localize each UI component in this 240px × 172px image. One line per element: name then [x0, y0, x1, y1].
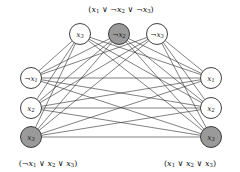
node-layer: x3¬x2¬x3¬x1x2x3x1x2x3 [21, 24, 222, 148]
graph-node-t1[interactable]: ¬x2 [109, 24, 130, 45]
node-circle-selected[interactable] [201, 127, 222, 148]
graph-edge [40, 39, 148, 102]
node-circle-selected[interactable] [21, 127, 42, 148]
graph-node-l0[interactable]: ¬x1 [21, 68, 42, 89]
graph-node-r1[interactable]: x2 [201, 98, 222, 119]
graph-edge [37, 43, 74, 100]
node-circle[interactable] [21, 98, 42, 119]
clause-graph: x3¬x2¬x3¬x1x2x3x1x2x3 (x1 ∨ ¬x2 ∨ ¬x3)(¬… [0, 0, 240, 172]
node-circle[interactable] [201, 68, 222, 89]
graph-edge [165, 41, 203, 72]
node-circle[interactable] [201, 98, 222, 119]
sat-reduction-figure: x3¬x2¬x3¬x1x2x3x1x2x3 (x1 ∨ ¬x2 ∨ ¬x3)(¬… [0, 0, 240, 172]
node-circle[interactable] [147, 24, 168, 45]
edge-layer [36, 37, 207, 137]
node-circle[interactable] [21, 68, 42, 89]
graph-node-l2[interactable]: x3 [21, 127, 42, 148]
graph-edge [39, 41, 72, 71]
clause-label-bottom-right: (x1 ∨ x2 ∨ x3) [164, 159, 216, 168]
graph-node-t0[interactable]: x3 [70, 24, 91, 45]
clause-label-top: (x1 ∨ ¬x2 ∨ ¬x3) [88, 5, 153, 14]
graph-edge [88, 40, 203, 130]
node-circle-selected[interactable] [109, 24, 130, 45]
clause-label-bottom-left: (¬x1 ∨ x2 ∨ x3) [19, 159, 78, 168]
graph-node-r2[interactable]: x3 [201, 127, 222, 148]
node-circle[interactable] [70, 24, 91, 45]
graph-node-r0[interactable]: x1 [201, 68, 222, 89]
graph-edge [41, 37, 147, 74]
graph-edge [163, 42, 205, 99]
graph-node-l1[interactable]: x2 [21, 98, 42, 119]
graph-edge [128, 39, 201, 74]
graph-node-t2[interactable]: ¬x3 [147, 24, 168, 45]
